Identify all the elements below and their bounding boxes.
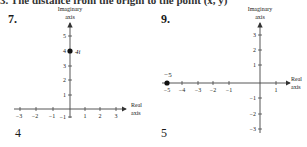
imag-axis-label-1: Imaginary <box>58 6 83 12</box>
y-tick-neg1: −1 <box>250 95 256 101</box>
x-tick-neg4: −4 <box>179 87 185 93</box>
y-tick-neg3: −3 <box>250 126 256 132</box>
y-tick-neg2: −2 <box>250 111 256 117</box>
y-tick-1: 1 <box>253 62 256 68</box>
x-tick-2: 2 <box>99 113 102 119</box>
imag-axis-label-1: Imaginary <box>248 6 273 12</box>
x-tick-neg2: −2 <box>32 113 38 119</box>
complex-plane-figures: Imaginary axis 5 4 3 2 1 −1 −3 −2 −1 1 2… <box>0 0 307 147</box>
x-tick-neg1: −1 <box>49 113 55 119</box>
y-tick-1: 1 <box>63 92 66 98</box>
point-neg5 <box>164 80 169 85</box>
x-tick-neg3: −3 <box>195 87 201 93</box>
graph-7: Imaginary axis 5 4 3 2 1 −1 −3 −2 −1 1 2… <box>14 6 142 120</box>
point-label-4i: 4i <box>75 48 81 56</box>
point-label-neg5: −5 <box>164 71 172 79</box>
x-tick-neg3: −3 <box>16 113 22 119</box>
x-tick-3: 3 <box>115 113 118 119</box>
y-tick-neg1: −1 <box>60 114 66 120</box>
imag-axis-label-2: axis <box>255 14 265 20</box>
imag-axis-label-2: axis <box>65 14 75 20</box>
real-axis-label-1: Real <box>291 76 302 82</box>
y-tick-2: 2 <box>253 47 256 53</box>
y-tick-4: 4 <box>63 48 66 54</box>
point-4i <box>67 48 72 53</box>
y-tick-3: 3 <box>253 32 256 38</box>
graph-9: Imaginary axis 3 2 1 −1 −2 −3 −5 −4 −3 −… <box>162 6 302 133</box>
x-tick-1: 1 <box>275 87 278 93</box>
x-tick-neg1: −1 <box>226 87 232 93</box>
x-tick-neg5: −5 <box>164 87 170 93</box>
real-axis-label-1: Real <box>131 102 142 108</box>
x-tick-neg2: −2 <box>210 87 216 93</box>
y-tick-3: 3 <box>63 63 66 69</box>
real-axis-label-2: axis <box>291 84 301 90</box>
y-tick-2: 2 <box>63 77 66 83</box>
y-tick-5: 5 <box>63 33 66 39</box>
real-axis-label-2: axis <box>131 110 141 116</box>
x-tick-1: 1 <box>84 113 87 119</box>
